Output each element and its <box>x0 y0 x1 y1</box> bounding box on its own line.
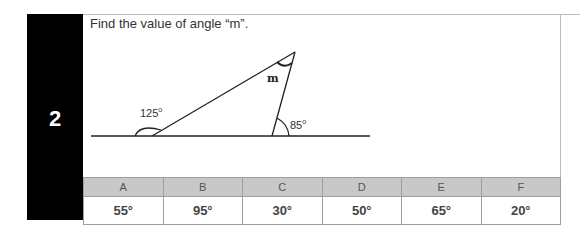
angle-85-label: 85o <box>290 118 306 131</box>
option-labels-row: A B C D E F <box>84 178 561 197</box>
option-value-f[interactable]: 20° <box>481 197 561 225</box>
option-value-d[interactable]: 50° <box>322 197 402 225</box>
option-value-c[interactable]: 30° <box>243 197 323 225</box>
option-label-d: D <box>322 178 402 197</box>
option-label-f: F <box>481 178 561 197</box>
option-value-a[interactable]: 55° <box>84 197 164 225</box>
answer-options-table: A B C D E F 55° 95° 30° 50° 65° 20° <box>83 177 561 225</box>
option-label-a: A <box>84 178 164 197</box>
option-value-e[interactable]: 65° <box>402 197 482 225</box>
option-label-c: C <box>243 178 323 197</box>
option-label-b: B <box>163 178 243 197</box>
option-value-b[interactable]: 95° <box>163 197 243 225</box>
option-label-e: E <box>402 178 482 197</box>
option-values-row: 55° 95° 30° 50° 65° 20° <box>84 197 561 225</box>
angle-m-label: m <box>267 72 279 85</box>
angle-125-label: 125o <box>140 106 162 119</box>
